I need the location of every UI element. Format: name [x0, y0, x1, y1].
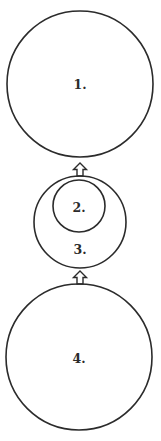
node-4: 4. [6, 284, 152, 430]
diagram-canvas: 1. 3. 2. 4. [0, 0, 161, 441]
node-3: 3. [34, 176, 126, 268]
up-arrow-icon [74, 271, 87, 284]
node-1: 1. [7, 11, 153, 157]
node-1-label: 1. [73, 77, 86, 92]
node-2-label: 2. [72, 200, 85, 215]
node-2: 2. [53, 180, 105, 232]
node-4-label: 4. [72, 351, 85, 366]
node-3-label: 3. [73, 242, 86, 257]
up-arrow-icon [74, 163, 87, 176]
